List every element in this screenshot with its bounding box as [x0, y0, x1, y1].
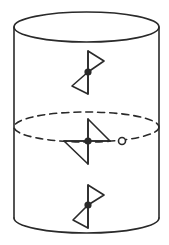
cylinder-top-ellipse	[14, 12, 159, 42]
bottom-pivot-dot	[85, 202, 91, 208]
diagram-canvas	[0, 0, 169, 245]
bottom-bowtie-symbol	[73, 185, 104, 228]
middle-rotated-bowtie-symbol	[64, 119, 110, 164]
cylinder	[14, 12, 159, 233]
middle-pivot-dot	[85, 138, 91, 144]
dashed-cross-section	[14, 112, 159, 142]
open-circle-marker	[119, 138, 126, 145]
top-pivot-dot	[85, 69, 91, 75]
cylinder-bottom-arc	[14, 218, 159, 233]
top-bowtie-symbol	[72, 51, 104, 94]
